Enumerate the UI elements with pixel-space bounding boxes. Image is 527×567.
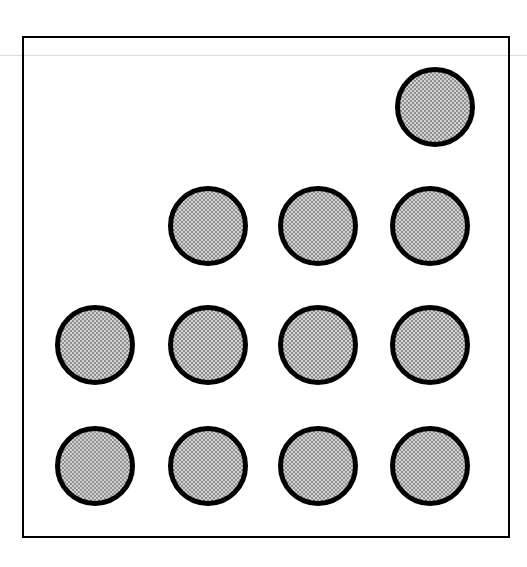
dot-marker xyxy=(278,305,358,385)
dot-marker xyxy=(390,186,470,266)
dot-marker xyxy=(168,305,248,385)
dot-marker xyxy=(168,186,248,266)
dot-marker xyxy=(278,186,358,266)
dot-marker xyxy=(168,426,248,506)
figure-canvas xyxy=(0,0,527,567)
dot-marker xyxy=(395,67,475,147)
dot-marker xyxy=(55,426,135,506)
dot-marker xyxy=(55,305,135,385)
dot-marker xyxy=(390,305,470,385)
dot-marker xyxy=(278,426,358,506)
dot-marker xyxy=(390,426,470,506)
